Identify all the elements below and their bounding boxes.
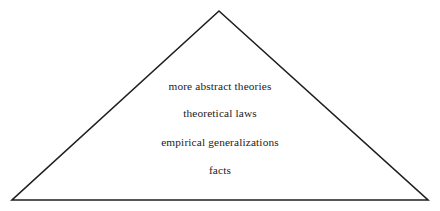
pyramid-layer-labels: more abstract theories theoretical laws … bbox=[0, 0, 440, 211]
pyramid-diagram: more abstract theories theoretical laws … bbox=[0, 0, 440, 211]
pyramid-layer-label-3: empirical generalizations bbox=[0, 136, 440, 148]
pyramid-layer-label-2: theoretical laws bbox=[0, 107, 440, 119]
pyramid-layer-label-1: more abstract theories bbox=[0, 80, 440, 92]
pyramid-layer-label-4: facts bbox=[0, 164, 440, 176]
